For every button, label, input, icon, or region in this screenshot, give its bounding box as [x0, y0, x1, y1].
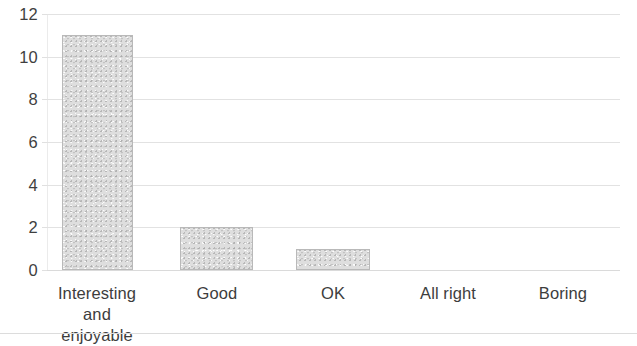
y-axis-tick-label: 4 — [4, 177, 38, 194]
plot-area — [47, 14, 620, 270]
bar-ok — [296, 249, 370, 270]
x-axis-label-line: enjoyable — [42, 325, 152, 346]
x-axis-label-good: Good — [175, 283, 259, 304]
y-axis-tick-label: 0 — [4, 262, 38, 279]
y-axis-tick-label: 8 — [4, 91, 38, 108]
y-axis-tick-label: 6 — [4, 134, 38, 151]
x-axis-label-ok: OK — [291, 283, 375, 304]
y-axis-tick-label: 12 — [4, 6, 38, 23]
x-axis-label-line: Good — [175, 283, 259, 304]
y-axis-tick-label: 2 — [4, 219, 38, 236]
x-axis-label-line: OK — [291, 283, 375, 304]
x-axis-category-labels: Interesting and enjoyable Good OK All ri… — [47, 283, 620, 335]
x-axis-label-boring: Boring — [521, 283, 605, 304]
bar-interesting-and-enjoyable — [62, 35, 133, 270]
x-axis-label-line: Interesting and — [42, 283, 152, 325]
x-axis-label-interesting-and-enjoyable: Interesting and enjoyable — [42, 283, 152, 346]
gridline — [47, 14, 620, 15]
x-axis-label-line: All right — [406, 283, 490, 304]
x-axis-label-all-right: All right — [406, 283, 490, 304]
bar-good — [180, 227, 253, 270]
gridline-baseline — [47, 270, 620, 271]
page-rule — [0, 333, 637, 334]
x-axis-label-line: Boring — [521, 283, 605, 304]
y-axis-tick-label: 10 — [4, 49, 38, 66]
